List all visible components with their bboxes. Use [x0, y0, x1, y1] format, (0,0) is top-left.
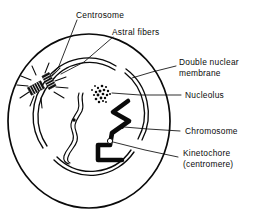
label-double-nuclear-membrane-line2: membrane: [179, 68, 221, 78]
label-astral-fibers: Astral fibers: [112, 27, 159, 37]
diagram-canvas: Centrosome Astral fibers Double nuclear …: [0, 0, 264, 213]
label-centrosome: Centrosome: [76, 10, 124, 20]
label-kinetochore-line2: (centromere): [183, 159, 233, 169]
kinetochore-ring: [107, 138, 112, 143]
label-kinetochore-line1: Kinetochore: [183, 148, 231, 158]
kinetochore-dot-thin-chromosome: [72, 118, 75, 121]
chromosome-point-marker: [120, 125, 124, 129]
label-nucleolus: Nucleolus: [185, 90, 224, 100]
cell-prophase-diagram: Centrosome Astral fibers Double nuclear …: [0, 0, 264, 213]
label-double-nuclear-membrane-line1: Double nuclear: [179, 57, 239, 67]
label-chromosome: Chromosome: [185, 126, 238, 136]
